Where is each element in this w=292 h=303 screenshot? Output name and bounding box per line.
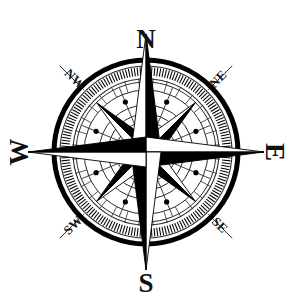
decorative-dot bbox=[94, 170, 99, 175]
decorative-dot bbox=[193, 129, 198, 134]
cardinal-label-west: W bbox=[4, 139, 34, 166]
cardinal-label-north: N bbox=[136, 24, 156, 54]
decorative-dot bbox=[94, 129, 99, 134]
decorative-dot bbox=[164, 100, 169, 105]
compass-rose-graphic: NESW NWNESESW bbox=[0, 0, 292, 303]
compass-rose-figure: NESW NWNESESW bbox=[0, 0, 292, 303]
cardinal-label-south: S bbox=[138, 268, 153, 298]
decorative-dot bbox=[164, 199, 169, 204]
decorative-dot bbox=[123, 100, 128, 105]
cardinal-label-east: E bbox=[260, 143, 290, 161]
decorative-dot bbox=[123, 199, 128, 204]
decorative-dot bbox=[193, 170, 198, 175]
